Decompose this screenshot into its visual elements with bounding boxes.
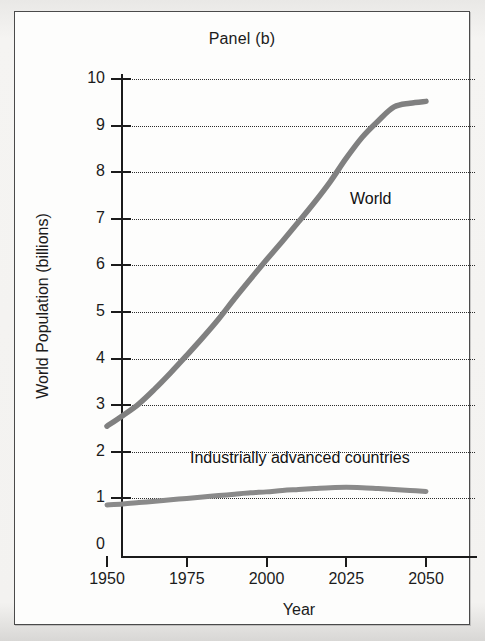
plot-area <box>15 12 471 626</box>
x-axis-title: Year <box>121 601 477 619</box>
screenshot-root: Panel (b) 012345678910 19501975200020252… <box>0 0 485 641</box>
y-axis-title: World Population (billions) <box>34 146 52 466</box>
series-label-industrially-advanced-countries: Industrially advanced countries <box>190 449 410 467</box>
series-line-industrially-advanced-countries <box>107 487 426 505</box>
series-label-world: World <box>350 190 392 208</box>
series-line-world <box>107 101 426 426</box>
figure-frame: Panel (b) 012345678910 19501975200020252… <box>14 11 470 625</box>
